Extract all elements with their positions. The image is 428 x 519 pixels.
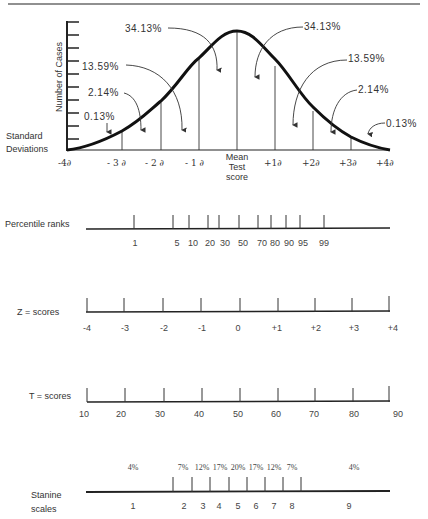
svg-text:+1∂: +1∂ <box>264 158 282 168</box>
svg-text:99: 99 <box>319 238 329 248</box>
svg-text:17%: 17% <box>249 463 264 472</box>
left-arrows <box>107 28 217 132</box>
percentile-tick-labels: 1 5 10 20 30 50 70 80 90 95 99 <box>132 238 329 248</box>
svg-text:5: 5 <box>174 238 179 248</box>
svg-text:-2: -2 <box>160 323 168 333</box>
svg-text:-1: -1 <box>198 323 206 333</box>
svg-text:- 2 ∂: - 2 ∂ <box>145 158 164 168</box>
standard-label: Standard <box>6 131 43 141</box>
svg-text:+3∂: +3∂ <box>339 158 357 168</box>
svg-text:7: 7 <box>271 501 276 511</box>
stanine-label-1: Stanine <box>31 490 62 500</box>
svg-text:90: 90 <box>284 238 294 248</box>
svg-text:30: 30 <box>220 238 230 248</box>
z-tick-labels: -4 -3 -2 -1 0 +1 +2 +3 +4 <box>83 323 398 333</box>
svg-text:7%: 7% <box>287 463 298 472</box>
pct-right-3: 2.14% <box>358 84 389 95</box>
pct-right-1: 34.13% <box>304 21 341 32</box>
test-label: Test <box>229 162 246 172</box>
svg-text:+4∂: +4∂ <box>376 158 394 168</box>
svg-text:20%: 20% <box>231 463 246 472</box>
svg-text:0: 0 <box>235 323 240 333</box>
svg-text:1: 1 <box>130 501 135 511</box>
y-axis <box>67 21 79 151</box>
t-tick-labels: 10 20 30 40 50 60 70 80 90 <box>79 409 403 419</box>
svg-text:90: 90 <box>393 409 403 419</box>
t-label: T = scores <box>29 391 72 401</box>
svg-text:80: 80 <box>270 238 280 248</box>
stanine-ticks <box>173 477 301 492</box>
svg-text:4: 4 <box>216 501 221 511</box>
percentile-ticks <box>134 215 324 229</box>
stanine-axis <box>86 491 390 492</box>
score-label: score <box>226 172 248 182</box>
svg-text:- 1 ∂: - 1 ∂ <box>185 158 204 168</box>
svg-text:+2∂: +2∂ <box>302 158 320 168</box>
z-ticks <box>87 296 389 312</box>
svg-text:10: 10 <box>188 238 198 248</box>
svg-text:5: 5 <box>235 501 240 511</box>
stanine-label-2: scales <box>31 504 57 514</box>
svg-text:+4: +4 <box>388 323 398 333</box>
svg-text:4%: 4% <box>349 463 360 472</box>
z-label: Z = scores <box>17 307 60 317</box>
stanine-percentages: 4% 7% 12% 17% 20% 17% 12% 7% 4% <box>128 463 360 472</box>
svg-text:70: 70 <box>257 238 267 248</box>
pct-left-1: 34.13% <box>125 23 162 34</box>
svg-text:10: 10 <box>79 409 89 419</box>
percentile-axis <box>86 228 390 229</box>
normal-curve-figure: Number of Cases 34.13% 13.59% 2.14% 0.13… <box>0 0 428 519</box>
svg-text:12%: 12% <box>195 463 210 472</box>
svg-text:30: 30 <box>155 409 165 419</box>
svg-text:-3: -3 <box>121 323 129 333</box>
pct-left-2: 13.59% <box>82 61 119 72</box>
svg-text:50: 50 <box>233 409 243 419</box>
svg-text:+3: +3 <box>349 323 359 333</box>
svg-text:12%: 12% <box>267 463 282 472</box>
svg-text:80: 80 <box>349 409 359 419</box>
svg-text:+2: +2 <box>311 323 321 333</box>
svg-text:3: 3 <box>200 501 205 511</box>
svg-text:60: 60 <box>271 409 281 419</box>
svg-text:70: 70 <box>309 409 319 419</box>
t-axis <box>87 401 390 402</box>
percentile-label: Percentile ranks <box>5 219 70 229</box>
svg-text:17%: 17% <box>213 463 228 472</box>
pct-right-2: 13.59% <box>348 53 385 64</box>
svg-text:1: 1 <box>132 238 137 248</box>
pct-left-3: 2.14% <box>88 87 119 98</box>
svg-text:4%: 4% <box>128 463 139 472</box>
svg-text:-4∂: -4∂ <box>58 158 71 168</box>
svg-text:+1: +1 <box>272 323 282 333</box>
sigma-lines <box>122 31 351 150</box>
svg-text:2: 2 <box>181 501 186 511</box>
svg-text:9: 9 <box>346 501 351 511</box>
stanine-numbers: 1 2 3 4 5 6 7 8 9 <box>130 501 351 511</box>
y-axis-label: Number of Cases <box>54 41 64 112</box>
svg-text:50: 50 <box>238 238 248 248</box>
svg-text:-4: -4 <box>83 323 91 333</box>
svg-text:- 3 ∂: - 3 ∂ <box>107 158 126 168</box>
right-arrows <box>255 27 385 134</box>
svg-text:8: 8 <box>289 501 294 511</box>
svg-text:95: 95 <box>298 238 308 248</box>
z-axis <box>86 311 390 312</box>
deviations-label: Deviations <box>6 144 49 154</box>
svg-text:40: 40 <box>194 409 204 419</box>
mean-label: Mean <box>226 152 249 162</box>
t-ticks <box>87 386 389 402</box>
svg-text:7%: 7% <box>178 463 189 472</box>
svg-text:20: 20 <box>205 238 215 248</box>
svg-text:20: 20 <box>116 409 126 419</box>
pct-left-4: 0.13% <box>84 111 115 122</box>
pct-right-4: 0.13% <box>386 118 417 129</box>
svg-text:6: 6 <box>253 501 258 511</box>
